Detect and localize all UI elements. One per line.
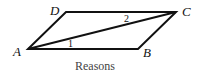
- parallelogram-figure: A B C D 1 2 Reasons: [0, 0, 201, 73]
- caption-reasons: Reasons: [0, 59, 190, 73]
- vertex-label-d: D: [49, 3, 60, 18]
- angle-label-2: 2: [124, 13, 129, 24]
- vertex-label-c: C: [182, 4, 191, 19]
- angle-label-1: 1: [68, 38, 73, 49]
- vertex-label-a: A: [12, 44, 21, 59]
- vertex-label-b: B: [143, 45, 151, 60]
